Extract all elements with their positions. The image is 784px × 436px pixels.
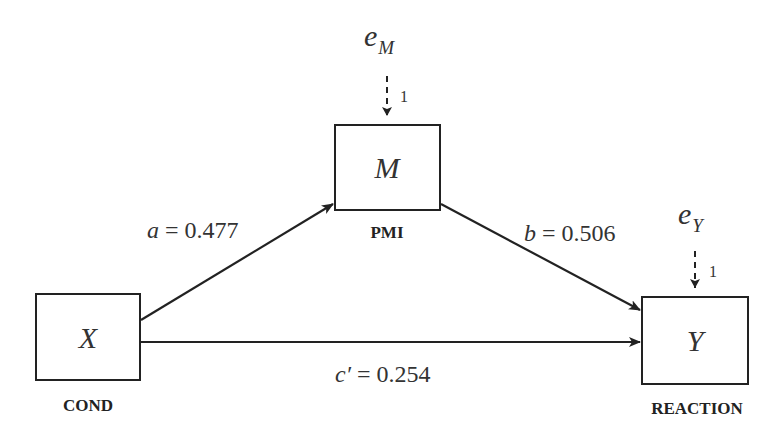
path-b-coefficient: b = 0.506 <box>524 220 616 246</box>
error-term-y: eY 1 <box>678 197 717 288</box>
error-y-label: eY <box>678 197 705 236</box>
node-x-label: COND <box>63 396 113 415</box>
node-m-symbol: M <box>374 151 402 184</box>
node-x-symbol: X <box>78 321 99 354</box>
node-y-label: REACTION <box>651 399 743 418</box>
mediation-diagram: eM 1 eY 1 M PMI X COND Y REACTION a = 0.… <box>0 0 784 436</box>
node-m-label: PMI <box>370 223 403 242</box>
error-term-m: eM 1 <box>364 19 408 116</box>
path-a-coefficient: a = 0.477 <box>147 217 239 243</box>
node-m: M PMI <box>335 125 440 242</box>
node-y: Y REACTION <box>642 297 748 418</box>
node-x: X COND <box>36 294 140 415</box>
error-m-label: eM <box>364 19 395 58</box>
path-c-prime-coefficient: c′ = 0.254 <box>335 361 430 387</box>
error-m-weight: 1 <box>400 88 408 105</box>
error-y-weight: 1 <box>709 263 717 280</box>
